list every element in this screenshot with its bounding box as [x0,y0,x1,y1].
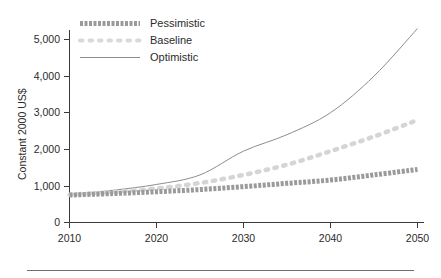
chart-legend: Pessimistic Baseline Optimistic [80,17,206,63]
legend-label-baseline: Baseline [150,34,192,46]
x-tick-label: 2040 [319,232,343,244]
chart-figure: Constant 2000 US$ 5,000 4,000 3,000 2,00… [0,0,441,278]
y-tick-label: 5,000 [34,33,60,45]
projection-line-chart: Constant 2000 US$ 5,000 4,000 3,000 2,00… [0,0,441,278]
legend-label-pessimistic: Pessimistic [150,17,206,29]
y-tick-label: 3,000 [34,106,60,118]
legend-label-optimistic: Optimistic [150,51,199,63]
x-tick-label: 2050 [406,232,430,244]
series-line-optimistic [70,29,418,195]
x-tick-labels: 2010 2020 2030 2040 2050 [58,232,430,244]
y-tick-label: 1,000 [34,180,60,192]
y-tick-labels: 5,000 4,000 3,000 2,000 1,000 0 [34,33,60,228]
series-layer [70,29,418,196]
series-line-baseline [70,120,418,195]
series-line-pessimistic [70,169,418,195]
x-tick-label: 2020 [145,232,169,244]
y-tick-label: 2,000 [34,143,60,155]
y-tick-label: 4,000 [34,70,60,82]
y-tick-label: 0 [54,216,60,228]
x-tick-marks [70,223,418,229]
x-tick-label: 2010 [58,232,82,244]
x-tick-label: 2030 [232,232,256,244]
y-axis-title: Constant 2000 US$ [16,88,28,180]
